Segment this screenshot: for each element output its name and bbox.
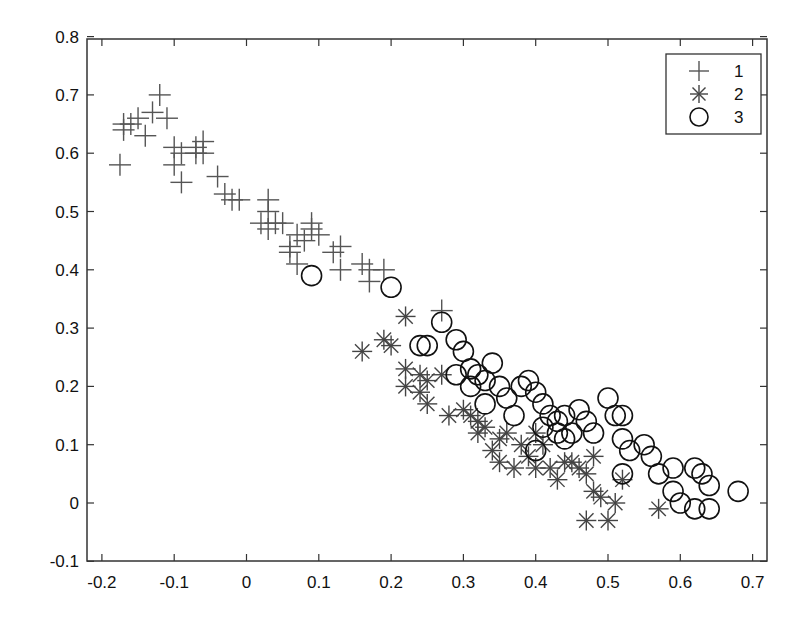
y-tick-label: 0.4 [55,261,79,280]
asterisk-marker-icon [576,464,596,484]
asterisk-marker-icon [475,417,495,437]
plot-area [87,39,767,561]
x-tick-label: 0.1 [307,573,331,592]
asterisk-marker-icon [352,341,372,361]
y-tick-label: 0 [70,494,79,513]
asterisk-marker-icon [690,85,708,103]
asterisk-marker-icon [417,394,437,414]
asterisk-marker-icon [598,510,618,530]
legend-label: 2 [734,85,743,104]
legend-label: 1 [734,62,743,81]
x-tick-label: 0.3 [452,573,476,592]
asterisk-marker-icon [439,406,459,426]
asterisk-marker-icon [396,306,416,326]
x-tick-label: 0.6 [668,573,692,592]
asterisk-marker-icon [504,458,524,478]
x-tick-label: 0.7 [741,573,765,592]
legend-label: 3 [734,108,743,127]
x-tick-label: 0.5 [596,573,620,592]
asterisk-marker-icon [612,470,632,490]
asterisk-marker-icon [591,487,611,507]
asterisk-marker-icon [381,336,401,356]
y-tick-label: 0.5 [55,203,79,222]
asterisk-marker-icon [649,499,669,519]
asterisk-marker-icon [396,376,416,396]
legend: 123 [666,54,761,134]
x-tick-label: 0.2 [379,573,403,592]
y-tick-label: -0.1 [50,552,79,571]
asterisk-marker-icon [490,452,510,472]
x-tick-label: 0 [242,573,251,592]
asterisk-marker-icon [396,359,416,379]
asterisk-marker-icon [584,446,604,466]
asterisk-marker-icon [547,470,567,490]
asterisk-marker-icon [417,371,437,391]
x-tick-label: -0.2 [87,573,116,592]
legend-box [666,54,761,134]
y-tick-label: 0.6 [55,144,79,163]
y-tick-label: 0.7 [55,86,79,105]
y-tick-label: 0.2 [55,377,79,396]
x-tick-label: -0.1 [160,573,189,592]
x-tick-label: 0.4 [524,573,548,592]
asterisk-marker-icon [605,493,625,513]
scatter-plot: -0.2-0.100.10.20.30.40.50.60.7 -0.100.10… [0,0,807,625]
y-tick-label: 0.8 [55,28,79,47]
asterisk-marker-icon [576,510,596,530]
y-tick-label: 0.1 [55,436,79,455]
y-tick-label: 0.3 [55,319,79,338]
